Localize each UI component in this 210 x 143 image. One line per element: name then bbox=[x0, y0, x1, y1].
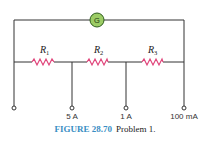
top-wire-right bbox=[104, 20, 184, 62]
terminal-1a bbox=[124, 106, 128, 110]
galvanometer-label: G bbox=[94, 16, 100, 25]
terminal-label-1a: 1 A bbox=[120, 112, 132, 121]
terminal-5a bbox=[70, 106, 74, 110]
resistor-r1 bbox=[32, 59, 54, 65]
resistor-label-r3: R3 bbox=[147, 44, 157, 56]
top-wire-left bbox=[14, 20, 90, 62]
figure-caption-text: Problem 1. bbox=[116, 124, 156, 134]
terminal-100ma bbox=[182, 106, 186, 110]
circuit-diagram: G R1 R2 R3 5 A 1 A 100 mA bbox=[0, 0, 210, 143]
figure-number: FIGURE 28.70 bbox=[54, 124, 112, 134]
resistor-label-r2: R2 bbox=[93, 44, 103, 56]
terminal-common bbox=[12, 106, 16, 110]
resistor-label-r1: R1 bbox=[39, 44, 49, 56]
figure-caption: FIGURE 28.70Problem 1. bbox=[0, 124, 210, 134]
resistor-r2 bbox=[87, 59, 108, 65]
resistor-r3 bbox=[142, 59, 163, 65]
terminal-label-5a: 5 A bbox=[66, 112, 78, 121]
terminal-label-100ma: 100 mA bbox=[170, 112, 198, 121]
